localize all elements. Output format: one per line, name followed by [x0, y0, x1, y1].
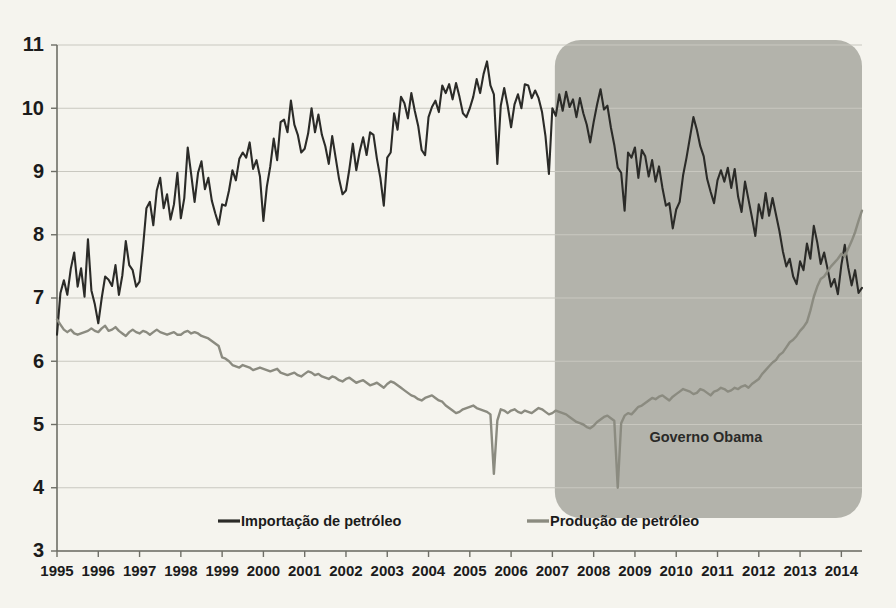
- x-tick-label: 2006: [494, 562, 527, 579]
- y-tick-label: 6: [33, 350, 44, 372]
- chart-annotations: Governo Obama: [649, 429, 763, 445]
- x-tick-label: 2011: [701, 562, 734, 579]
- x-tick-label: 2012: [742, 562, 775, 579]
- x-tick-label: 2009: [618, 562, 651, 579]
- legend-label-importacao: Importação de petróleo: [241, 513, 401, 529]
- x-tick-label: 2000: [247, 562, 280, 579]
- x-tick-label: 1998: [164, 562, 197, 579]
- x-tick-label: 2008: [577, 562, 610, 579]
- y-tick-label: 10: [22, 97, 44, 119]
- y-tick-label: 4: [33, 476, 45, 498]
- y-tick-label: 9: [33, 160, 44, 182]
- x-tick-label: 2007: [536, 562, 569, 579]
- y-tick-label: 5: [33, 413, 44, 435]
- y-tick-label: 11: [23, 33, 44, 55]
- x-tick-label: 2014: [825, 562, 859, 579]
- x-tick-label: 2005: [453, 562, 486, 579]
- x-tick-label: 2003: [371, 562, 404, 579]
- x-tick-label: 2001: [288, 562, 321, 579]
- y-tick-label: 7: [33, 286, 44, 308]
- x-tick-label: 1999: [205, 562, 238, 579]
- annotation-governo-obama: Governo Obama: [649, 429, 763, 445]
- x-tick-label: 2002: [329, 562, 362, 579]
- x-tick-label: 1996: [82, 562, 115, 579]
- legend-label-producao: Produção de petróleo: [550, 513, 699, 529]
- shaded-band: [555, 40, 862, 518]
- y-tick-label: 3: [33, 539, 44, 561]
- chart-container: 11109876543 1995199619971998199920002001…: [0, 0, 896, 608]
- x-tick-label: 1995: [40, 562, 73, 579]
- x-tick-label: 1997: [123, 562, 156, 579]
- x-tick-label: 2013: [783, 562, 816, 579]
- x-tick-label: 2004: [412, 562, 446, 579]
- oil-production-import-line-chart: 11109876543 1995199619971998199920002001…: [0, 0, 896, 608]
- x-tick-label: 2010: [660, 562, 693, 579]
- y-tick-label: 8: [33, 223, 44, 245]
- shaded-region-governo-obama: [555, 40, 862, 518]
